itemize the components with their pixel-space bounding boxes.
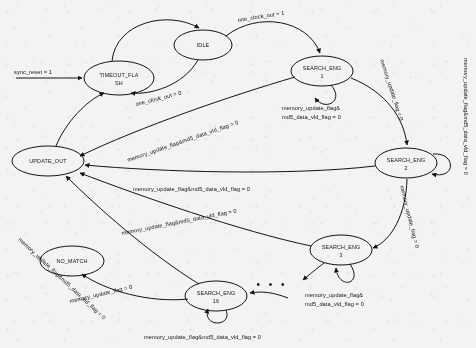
state-label-search-eng-16-line2: 16 xyxy=(213,298,219,304)
edge-label-search1-self-line2: md5_data_vld_flag = 0 xyxy=(282,114,341,120)
edge-label-search3-self-line2: md5_data_vld_flag = 0 xyxy=(305,301,364,307)
state-label-search-eng-2-line2: 2 xyxy=(404,165,407,171)
state-label-update-out: UPDATE_OUT xyxy=(29,158,67,164)
edge-label-search3-self-line1: memory_update_flag& xyxy=(305,292,363,298)
state-label-timeout-flash-line1: TIMEOUT_FLA xyxy=(100,72,139,78)
edge-label-idle-to-timeout: one_clock_out = 0 xyxy=(135,90,182,107)
edge-timeout-to-idle xyxy=(112,20,199,61)
edge-label-search1-to-update: memory_update_flag&md5_data_vld_flag = 0 xyxy=(126,119,239,163)
state-node-idle[interactable]: IDLE xyxy=(174,30,232,60)
state-node-search-eng-1[interactable]: SEARCH_ENG 1 xyxy=(291,56,353,86)
edge-label-search2-to-update: memory_update_flag&md5_data_vld_flag = 0 xyxy=(133,186,250,192)
diagram-svg: TIMEOUT_FLA SH IDLE SEARCH_ENG 1 SEARCH_… xyxy=(0,0,476,348)
edge-dots-to-search16 xyxy=(250,292,288,298)
edge-update-to-timeout xyxy=(56,93,104,146)
state-node-search-eng-3[interactable]: SEARCH_ENG 3 xyxy=(310,235,372,265)
state-diagram-canvas: TIMEOUT_FLA SH IDLE SEARCH_ENG 1 SEARCH_… xyxy=(0,0,476,348)
edge-search3-self-loop xyxy=(336,264,354,282)
edge-search1-to-update xyxy=(80,77,295,156)
state-node-search-eng-16[interactable]: SEARCH_ENG 16 xyxy=(185,281,247,311)
edge-idle-to-search1 xyxy=(226,22,320,53)
state-label-search-eng-2-line1: SEARCH_ENG xyxy=(387,157,426,163)
edge-label-search2-self: memory_update_flag&md5_data_vld_flag = 0 xyxy=(463,58,469,175)
edge-label-sync-reset: sync_reset = 1 xyxy=(14,69,52,75)
edge-search1-self-loop xyxy=(315,85,336,104)
edge-label-idle-to-search1: one_clock_out = 1 xyxy=(237,10,285,23)
state-label-timeout-flash-line2: SH xyxy=(115,80,123,86)
edge-search2-to-update xyxy=(85,165,375,172)
ellipsis-dots: • • • xyxy=(256,279,287,290)
edge-label-search1-to-search2: memory_update_flag = 0 xyxy=(379,58,405,121)
state-label-search-eng-3-line2: 3 xyxy=(339,252,342,258)
edge-label-search1-self-line1: memory_update_flag& xyxy=(282,105,340,111)
edge-label-search16-to-update: memory_update_flag&md5_data_vld_flag = 0 xyxy=(17,236,107,320)
state-label-no-match: NO_MATCH xyxy=(56,258,87,264)
edge-label-search16-self: memory_update_flag&md5_data_vld_flag = 0 xyxy=(144,334,261,340)
state-label-search-eng-3-line1: SEARCH_ENG xyxy=(322,244,361,250)
state-node-timeout-flash[interactable]: TIMEOUT_FLA SH xyxy=(84,61,154,95)
edge-search3-to-update xyxy=(80,173,311,246)
state-label-idle: IDLE xyxy=(197,42,210,48)
state-node-update-out[interactable]: UPDATE_OUT xyxy=(12,146,84,176)
edge-label-search2-to-search3: memory_update_flag = 0 xyxy=(399,185,420,249)
edge-search3-stub xyxy=(303,263,324,280)
state-node-no-match[interactable]: NO_MATCH xyxy=(40,246,104,276)
state-label-search-eng-16-line1: SEARCH_ENG xyxy=(197,290,236,296)
state-label-search-eng-1-line2: 1 xyxy=(320,73,323,79)
state-node-search-eng-2[interactable]: SEARCH_ENG 2 xyxy=(375,148,437,178)
state-label-search-eng-1-line1: SEARCH_ENG xyxy=(303,65,342,71)
